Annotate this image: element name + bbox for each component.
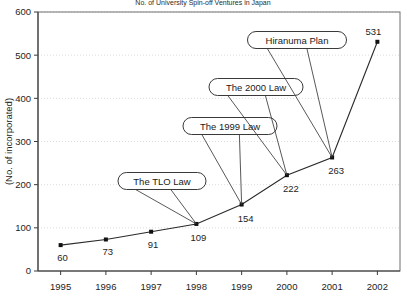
y-tick-label-300: 300	[15, 136, 31, 147]
callout-label-3: The 2000 Law	[226, 82, 286, 93]
data-label-1997: 91	[148, 239, 159, 250]
data-point-2002[interactable]	[375, 40, 379, 44]
x-tick-label-1996: 1996	[95, 281, 116, 292]
leader-line-2-2	[239, 135, 241, 205]
annotation-callout-1[interactable]: The TLO Law	[118, 173, 206, 224]
chart-title: No. of University Spin-off Ventures in J…	[135, 0, 270, 7]
data-label-1995: 60	[57, 252, 68, 263]
x-tick-label-1999: 1999	[231, 281, 252, 292]
x-tick-label-2001: 2001	[322, 281, 343, 292]
x-tick-label-1995: 1995	[50, 281, 71, 292]
x-tick-label-1998: 1998	[186, 281, 207, 292]
data-point-1996[interactable]	[104, 237, 108, 241]
leader-line-2-1	[202, 135, 242, 205]
leader-line-4-1	[267, 49, 332, 158]
y-tick-label-500: 500	[15, 50, 31, 61]
y-tick-label-0: 0	[26, 265, 31, 276]
y-axis-title: (No. of incorporated)	[3, 98, 14, 185]
line-chart: No. of University Spin-off Ventures in J…	[0, 0, 407, 305]
x-tick-label-1997: 1997	[141, 281, 162, 292]
callout-label-4: Hiranuma Plan	[266, 35, 329, 46]
chart-container: No. of University Spin-off Ventures in J…	[0, 0, 407, 305]
annotation-callout-2[interactable]: The 1999 Law	[183, 118, 277, 205]
data-label-2001: 263	[328, 165, 344, 176]
leader-line-3-2	[265, 96, 286, 176]
data-point-1995[interactable]	[59, 243, 63, 247]
series-line	[61, 42, 378, 245]
callout-label-2: The 1999 Law	[200, 121, 260, 132]
data-label-2000: 222	[283, 183, 299, 194]
data-label-1999: 154	[238, 213, 254, 224]
y-tick-label-400: 400	[15, 93, 31, 104]
data-label-1998: 109	[190, 232, 206, 243]
y-tick-label-600: 600	[15, 6, 31, 17]
leader-line-3-1	[228, 96, 287, 176]
x-tick-label-2000: 2000	[276, 281, 297, 292]
callout-label-1: The TLO Law	[133, 176, 191, 187]
data-point-1997[interactable]	[149, 230, 153, 234]
leader-line-1-1	[136, 190, 197, 224]
y-tick-label-200: 200	[15, 179, 31, 190]
x-tick-label-2002: 2002	[367, 281, 388, 292]
data-label-2002: 531	[365, 26, 381, 37]
leader-line-1-2	[171, 190, 197, 224]
data-label-1996: 73	[103, 246, 114, 257]
leader-line-4-2	[307, 49, 332, 158]
y-tick-label-100: 100	[15, 222, 31, 233]
